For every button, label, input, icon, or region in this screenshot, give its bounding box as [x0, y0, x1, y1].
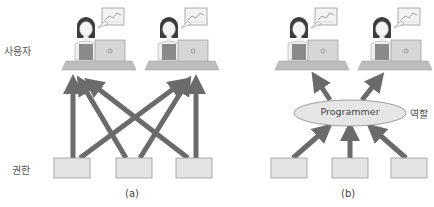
permission-box	[54, 158, 90, 178]
user-icon	[358, 8, 432, 70]
panel-a-caption: (a)	[125, 188, 139, 199]
permission-box	[271, 158, 307, 178]
user-icon	[275, 8, 349, 70]
panel-b-users	[275, 8, 432, 70]
rbac-diagram	[0, 0, 434, 207]
panel-a-arrows	[73, 84, 196, 158]
panel-b-caption: (b)	[341, 188, 355, 199]
permission-box	[176, 158, 212, 178]
permission-box	[391, 158, 427, 178]
panel-a-permissions	[54, 158, 212, 178]
permission-box	[332, 158, 368, 178]
role-name: Programmer	[295, 106, 405, 117]
panel-b-permissions	[271, 158, 427, 178]
user-icon	[145, 8, 219, 70]
panel-a-users	[62, 8, 219, 70]
user-icon	[62, 8, 136, 70]
permission-box	[116, 158, 152, 178]
